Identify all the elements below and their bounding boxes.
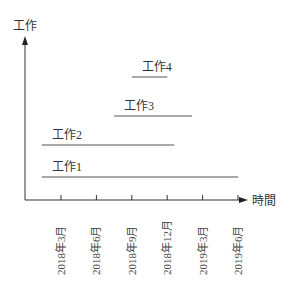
x-tick-label: 2018年12月	[160, 220, 173, 275]
x-axis-label: 時間	[252, 194, 276, 208]
task-label: 工作1	[52, 160, 82, 174]
x-tick-label: 2018年3月	[54, 226, 67, 276]
task-label: 工作3	[124, 99, 154, 113]
x-tick-label: 2018年9月	[125, 226, 138, 276]
y-axis-arrow-icon	[22, 36, 28, 45]
gantt-diagram: 工作 時間 2018年3月2018年6月2018年9月2018年12月2019年…	[0, 0, 293, 289]
task-label: 工作2	[52, 128, 82, 142]
y-axis-label: 工作	[13, 19, 37, 33]
x-axis-arrow-icon	[239, 197, 248, 203]
task-label: 工作4	[142, 60, 172, 74]
x-tick-label: 2019年6月	[231, 226, 244, 276]
x-tick-label: 2018年6月	[89, 226, 102, 276]
x-tick-label: 2019年3月	[196, 226, 209, 276]
